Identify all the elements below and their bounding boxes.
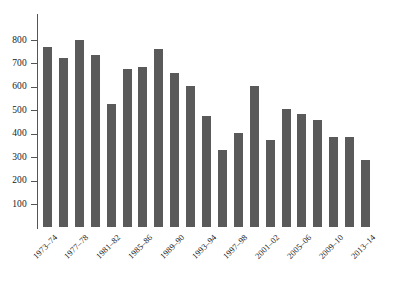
y-axis-tick: 800 xyxy=(31,40,37,41)
x-axis-tick-label: 1981–82 xyxy=(95,233,123,261)
y-axis-tick-label: 200 xyxy=(12,176,27,186)
y-axis-tick-mark xyxy=(31,134,37,135)
y-axis-tick-label: 600 xyxy=(12,83,27,93)
bar xyxy=(170,73,179,228)
bar xyxy=(91,55,100,227)
x-axis-tick-label: 2001–02 xyxy=(254,233,282,261)
x-axis-tick-label: 2009–10 xyxy=(317,233,345,261)
y-axis-tick-label: 400 xyxy=(12,129,27,139)
y-axis-tick: 300 xyxy=(31,157,37,158)
y-axis-tick-label: 300 xyxy=(12,153,27,163)
x-axis-tick-label: 1989–90 xyxy=(158,233,186,261)
y-axis-tick-mark xyxy=(31,157,37,158)
bar xyxy=(202,116,211,227)
x-axis-tick-label: 1993–94 xyxy=(190,233,218,261)
bars-layer xyxy=(38,14,404,229)
x-axis-tick-label: 1997–98 xyxy=(222,233,250,261)
bar-chart: 100200300400500600700800 1973–741977–781… xyxy=(0,0,420,296)
y-axis-tick-mark xyxy=(31,40,37,41)
x-axis-tick-label: 2013–14 xyxy=(349,233,377,261)
y-axis-tick-label: 100 xyxy=(12,200,27,210)
y-axis-tick-mark xyxy=(31,63,37,64)
y-axis-tick-mark xyxy=(31,110,37,111)
bar xyxy=(154,49,163,227)
y-axis-tick-mark xyxy=(31,181,37,182)
y-axis-tick-mark xyxy=(31,87,37,88)
y-axis-tick-label: 500 xyxy=(12,106,27,116)
y-axis-tick-label: 800 xyxy=(12,36,27,46)
bar xyxy=(297,114,306,228)
bar xyxy=(138,67,147,227)
y-axis-tick: 500 xyxy=(31,110,37,111)
y-axis-tick: 100 xyxy=(31,204,37,205)
y-axis-tick: 600 xyxy=(31,87,37,88)
x-axis-tick-label: 2005–06 xyxy=(285,233,313,261)
bar xyxy=(266,140,275,228)
plot-area xyxy=(38,14,404,229)
y-axis-tick: 400 xyxy=(31,134,37,135)
bar xyxy=(123,69,132,227)
bar xyxy=(329,137,338,227)
bar xyxy=(107,104,116,227)
y-axis-tick-mark xyxy=(31,204,37,205)
x-axis-tick-label: 1977–78 xyxy=(63,233,91,261)
x-axis-tick-label: 1973–74 xyxy=(31,233,59,261)
bar xyxy=(313,120,322,228)
bar xyxy=(345,137,354,227)
bar xyxy=(250,86,259,228)
bar xyxy=(75,40,84,227)
x-axis-tick-label: 1985–86 xyxy=(126,233,154,261)
bar xyxy=(282,109,291,227)
bar xyxy=(218,150,227,227)
y-axis-tick-label: 700 xyxy=(12,59,27,69)
bar xyxy=(186,86,195,228)
y-axis-tick: 200 xyxy=(31,181,37,182)
bar xyxy=(43,47,52,227)
y-axis-tick: 700 xyxy=(31,63,37,64)
bar xyxy=(59,58,68,228)
bar xyxy=(234,133,243,228)
bar xyxy=(361,160,370,228)
